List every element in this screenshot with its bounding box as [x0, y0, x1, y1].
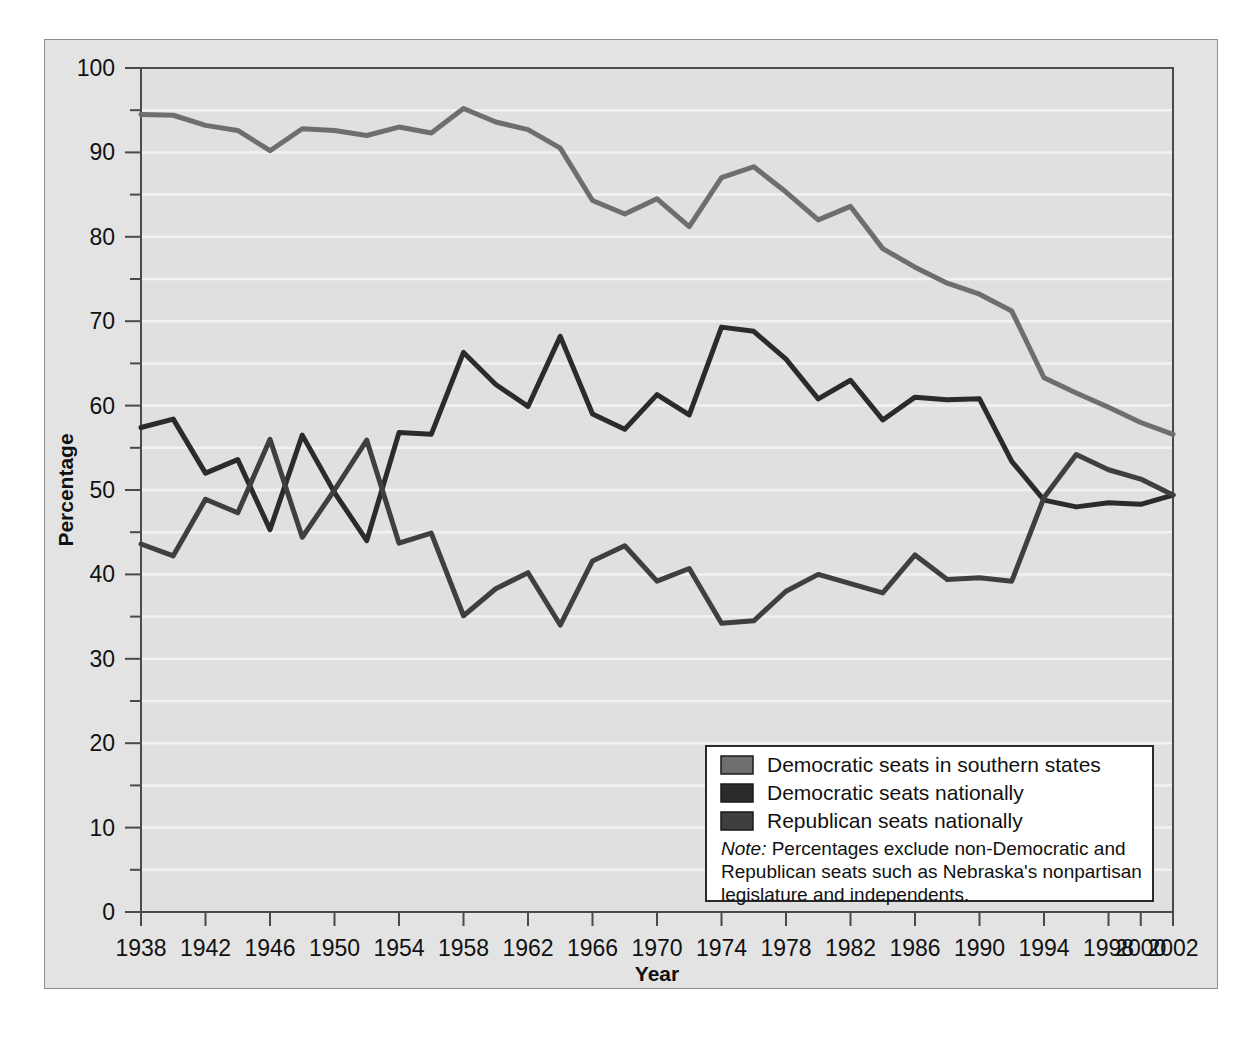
legend-swatch-republican-national — [721, 812, 753, 830]
y-axis-ticks: 0102030405060708090100 — [77, 55, 141, 925]
line-chart: 0102030405060708090100 19381942194619501… — [45, 40, 1217, 988]
legend-note-line-1: Note: Percentages exclude non-Democratic… — [721, 838, 1126, 859]
x-tick-label: 1962 — [502, 935, 553, 961]
y-tick-label: 0 — [102, 899, 115, 925]
x-tick-label: 1994 — [1018, 935, 1069, 961]
y-tick-label: 60 — [89, 393, 115, 419]
y-tick-label: 100 — [77, 55, 115, 81]
legend-label-democratic-national: Democratic seats nationally — [767, 781, 1024, 804]
chart-legend: Democratic seats in southern states Demo… — [706, 746, 1153, 905]
legend-swatch-democratic-national — [721, 784, 753, 802]
x-tick-label: 1946 — [244, 935, 295, 961]
figure-root: 0102030405060708090100 19381942194619501… — [0, 0, 1259, 1048]
y-tick-label: 20 — [89, 730, 115, 756]
y-tick-label: 90 — [89, 139, 115, 165]
legend-note-line-2: Republican seats such as Nebraska's nonp… — [721, 861, 1142, 882]
x-tick-label: 1942 — [180, 935, 231, 961]
y-tick-label: 80 — [89, 224, 115, 250]
legend-label-democratic-southern: Democratic seats in southern states — [767, 753, 1101, 776]
x-tick-label: 1982 — [825, 935, 876, 961]
y-axis-title: Percentage — [54, 433, 77, 546]
legend-note-text-1: Percentages exclude non-Democratic and — [766, 838, 1125, 859]
x-tick-label: 1990 — [954, 935, 1005, 961]
x-tick-label: 1938 — [115, 935, 166, 961]
y-tick-label: 10 — [89, 815, 115, 841]
x-axis-title: Year — [635, 962, 679, 985]
x-tick-label: 1978 — [760, 935, 811, 961]
x-tick-label: 1950 — [309, 935, 360, 961]
x-tick-label: 1986 — [889, 935, 940, 961]
x-axis-ticks: 1938194219461950195419581962196619701974… — [115, 912, 1198, 961]
legend-swatch-democratic-southern — [721, 756, 753, 774]
x-tick-label: 1974 — [696, 935, 747, 961]
x-tick-label: 1958 — [438, 935, 489, 961]
y-tick-label: 50 — [89, 477, 115, 503]
x-tick-label: 1954 — [373, 935, 424, 961]
legend-label-republican-national: Republican seats nationally — [767, 809, 1023, 832]
y-tick-label: 70 — [89, 308, 115, 334]
legend-note-line-3: legislature and independents. — [721, 884, 969, 905]
x-tick-label: 1970 — [631, 935, 682, 961]
y-tick-label: 40 — [89, 561, 115, 587]
y-tick-label: 30 — [89, 646, 115, 672]
x-tick-label: 2002 — [1147, 935, 1198, 961]
chart-panel: 0102030405060708090100 19381942194619501… — [44, 39, 1218, 989]
x-tick-label: 1966 — [567, 935, 618, 961]
legend-note-prefix: Note: — [721, 838, 766, 859]
